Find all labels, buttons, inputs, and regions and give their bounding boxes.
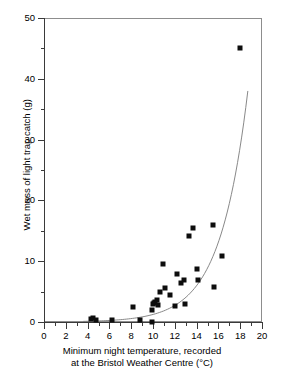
x-tick-major [197,323,198,329]
y-tick-minor [41,109,44,110]
x-tick-minor [120,323,121,326]
x-tick-minor [186,323,187,326]
x-tick-major [44,323,45,329]
x-tick-label: 8 [129,331,134,341]
data-point [110,318,115,323]
x-tick-minor [55,323,56,326]
x-tick-label: 10 [148,331,159,341]
data-point [174,271,179,276]
x-tick-major [262,323,263,329]
y-tick-minor [41,170,44,171]
data-point [149,320,154,325]
y-axis-title: Wet mass of light trap catch (g) [22,50,32,280]
data-point [162,285,167,290]
x-tick-label: 16 [213,331,224,341]
y-tick-major [38,261,44,262]
y-tick-label: 50 [24,13,35,23]
plot-area [44,18,262,322]
x-tick-label: 18 [235,331,246,341]
y-axis-line [44,18,45,323]
x-tick-label: 12 [170,331,181,341]
scatter-chart: 0246810121416182001020304050 Wet mass of… [0,0,284,382]
y-tick-major [38,18,44,19]
y-tick-major [38,200,44,201]
x-tick-major [88,323,89,329]
x-tick-major [66,323,67,329]
data-point [172,304,177,309]
x-tick-major [131,323,132,329]
y-tick-minor [41,231,44,232]
y-tick-label: 0 [30,317,35,327]
x-tick-label: 6 [107,331,112,341]
data-point [182,302,187,307]
data-point [157,289,162,294]
data-point [186,233,191,238]
x-tick-major [175,323,176,329]
y-tick-major [38,140,44,141]
x-tick-major [240,323,241,329]
data-point [212,285,217,290]
data-point [94,317,99,322]
x-tick-minor [251,323,252,326]
x-tick-label: 4 [85,331,90,341]
x-tick-minor [99,323,100,326]
x-tick-major [109,323,110,329]
data-point [181,278,186,283]
data-point [219,254,224,259]
data-point [160,261,165,266]
x-tick-minor [77,323,78,326]
data-point [130,305,135,310]
x-tick-minor [229,323,230,326]
y-tick-major [38,322,44,323]
data-point [238,46,243,51]
data-point [138,317,143,322]
y-tick-minor [41,48,44,49]
x-tick-label: 0 [41,331,46,341]
x-tick-minor [208,323,209,326]
data-point [195,278,200,283]
x-tick-minor [164,323,165,326]
x-tick-label: 2 [63,331,68,341]
data-point [150,307,155,312]
y-tick-major [38,79,44,80]
data-point [210,223,215,228]
data-point [168,293,173,298]
y-tick-minor [41,292,44,293]
x-axis-title: Minimum night temperature, recorded at t… [0,345,284,369]
x-tick-label: 20 [257,331,268,341]
data-point [190,225,195,230]
x-tick-label: 14 [191,331,202,341]
data-point [155,302,160,307]
x-axis-title-line1: Minimum night temperature, recorded [0,345,284,357]
x-axis-title-line2: at the Bristol Weather Centre (°C) [0,357,284,369]
data-point [194,267,199,272]
x-tick-major [218,323,219,329]
x-tick-minor [142,323,143,326]
